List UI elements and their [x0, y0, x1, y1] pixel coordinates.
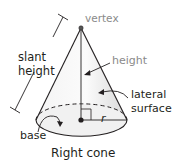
base-label: base [20, 130, 46, 142]
height-label: height [112, 55, 147, 67]
vertex-point [79, 26, 83, 30]
lateral-surface-label-line1: lateral [131, 88, 172, 102]
vertex-label: vertex [85, 12, 119, 24]
slant-height-label-line2: height [18, 64, 55, 78]
diagram-caption: Right cone [51, 147, 115, 159]
radius-label: r [101, 113, 106, 125]
slant-height-label-line1: slant [18, 50, 55, 64]
lateral-surface-label-line2: surface [131, 102, 172, 116]
slant-height-label: slant height [18, 50, 55, 78]
base-center-point [78, 117, 83, 122]
lateral-surface-label: lateral surface [131, 88, 172, 116]
